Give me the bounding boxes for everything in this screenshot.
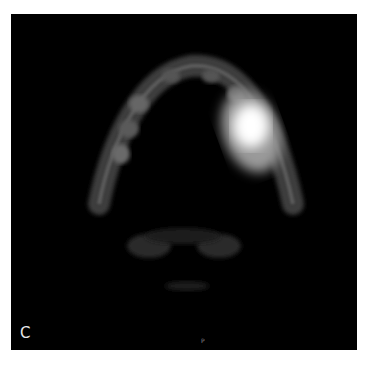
scan-image-panel: C P: [11, 14, 357, 350]
bottom-marker: P: [201, 337, 205, 344]
panel-label: C: [20, 324, 30, 342]
mandible-scan-graphic: [11, 14, 357, 350]
caption-area: [0, 352, 372, 367]
